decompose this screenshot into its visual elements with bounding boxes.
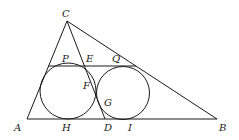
label-f: F (82, 80, 91, 91)
label-c: C (62, 8, 70, 19)
label-h: H (61, 122, 71, 133)
geometry-diagram: C A B D H I P E Q F G (0, 0, 239, 140)
label-d: D (103, 122, 112, 133)
label-p: P (61, 53, 69, 64)
triangle-abc (27, 21, 217, 119)
label-i: I (127, 122, 133, 133)
label-a: A (13, 122, 21, 133)
label-b: B (218, 122, 226, 133)
label-e: E (85, 53, 94, 64)
label-g: G (104, 97, 112, 108)
label-q: Q (112, 53, 120, 64)
circle-2 (97, 67, 150, 120)
circle-1 (40, 63, 96, 119)
